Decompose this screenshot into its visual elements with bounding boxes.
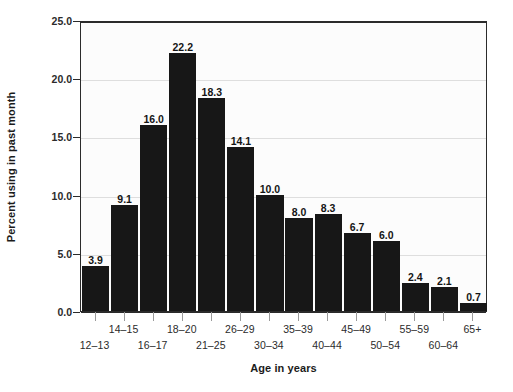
x-tick-mark [153, 312, 154, 321]
x-tick-mark [385, 312, 386, 321]
y-tick-label-15.0: 15.0 [28, 131, 72, 143]
x-tick-mark [269, 312, 270, 321]
x-tick-label: 14–15 [109, 323, 139, 335]
gridline-20.0 [81, 80, 486, 81]
bar-value-label: 9.1 [117, 193, 132, 205]
y-tick-mark-0.0 [73, 312, 80, 313]
bar-value-label: 6.7 [350, 221, 365, 233]
y-tick-mark-25.0 [73, 21, 80, 22]
y-tick-mark-15.0 [73, 137, 80, 138]
plot-area: 3.99.116.022.218.314.110.08.08.36.76.02.… [80, 21, 487, 312]
bar [344, 233, 371, 311]
bar [285, 218, 312, 311]
y-tick-label-0.0: 0.0 [28, 306, 72, 318]
x-tick-mark [124, 312, 125, 321]
x-tick-label: 55–59 [399, 323, 429, 335]
bar [198, 98, 225, 311]
x-tick-mark [298, 312, 299, 321]
x-tick-mark [211, 312, 212, 321]
gridline-25.0 [81, 22, 486, 23]
x-tick-label: 12–13 [80, 339, 110, 351]
bar-value-label: 6.0 [379, 229, 394, 241]
x-tick-label: 45–49 [341, 323, 371, 335]
x-tick-label: 60–64 [429, 339, 459, 351]
bar [431, 287, 458, 311]
bar-value-label: 14.1 [231, 135, 251, 147]
x-tick-label: 26–29 [225, 323, 255, 335]
bar-value-label: 8.0 [292, 206, 307, 218]
bar [315, 214, 342, 311]
x-tick-mark [327, 312, 328, 321]
y-tick-label-10.0: 10.0 [28, 190, 72, 202]
y-tick-mark-20.0 [73, 79, 80, 80]
x-tick-mark [182, 312, 183, 321]
x-tick-label: 35–39 [283, 323, 313, 335]
bar-value-label: 22.2 [173, 41, 193, 53]
bar [111, 205, 138, 311]
x-tick-mark [95, 312, 96, 321]
y-tick-label-25.0: 25.0 [28, 15, 72, 27]
x-tick-mark [472, 312, 473, 321]
bar [169, 53, 196, 311]
y-tick-mark-5.0 [73, 254, 80, 255]
y-axis-title-container: Percent using in past month [0, 21, 22, 312]
bar [373, 241, 400, 311]
x-tick-mark [356, 312, 357, 321]
bar-value-label: 3.9 [88, 254, 103, 266]
x-tick-label: 16–17 [138, 339, 168, 351]
bar-value-label: 0.7 [466, 291, 481, 303]
chart-figure: Percent using in past month 0.05.010.015… [0, 0, 513, 392]
bar [460, 303, 487, 311]
plot-inner: 3.99.116.022.218.314.110.08.08.36.76.02.… [81, 22, 486, 311]
y-tick-label-5.0: 5.0 [28, 248, 72, 260]
bar-value-label: 16.0 [143, 113, 163, 125]
bar [82, 266, 109, 311]
y-axis-title: Percent using in past month [5, 91, 17, 242]
bar [227, 147, 254, 311]
x-tick-label: 40–44 [312, 339, 342, 351]
y-tick-mark-10.0 [73, 196, 80, 197]
x-tick-mark [414, 312, 415, 321]
bar-value-label: 2.1 [437, 275, 452, 287]
bar-value-label: 8.3 [321, 202, 336, 214]
x-tick-label: 21–25 [196, 339, 226, 351]
x-axis: 12–1314–1516–1718–2021–2526–2930–3435–39… [80, 312, 487, 358]
x-tick-label: 65+ [463, 323, 481, 335]
x-axis-title: Age in years [80, 362, 487, 374]
x-tick-label: 18–20 [167, 323, 197, 335]
x-tick-label: 50–54 [370, 339, 400, 351]
x-tick-label: 30–34 [254, 339, 284, 351]
x-tick-mark [443, 312, 444, 321]
x-tick-mark [240, 312, 241, 321]
y-tick-label-20.0: 20.0 [28, 73, 72, 85]
bar-value-label: 2.4 [408, 271, 423, 283]
bar [256, 195, 283, 311]
bar [140, 125, 167, 311]
bar-value-label: 10.0 [260, 183, 280, 195]
bar-value-label: 18.3 [202, 86, 222, 98]
bar [402, 283, 429, 311]
